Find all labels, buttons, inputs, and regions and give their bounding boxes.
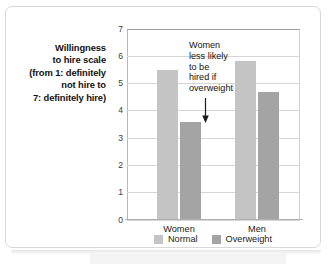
y-tick-7: 7 xyxy=(107,25,123,34)
y-tick-4: 4 xyxy=(107,106,123,115)
y-tick-0: 0 xyxy=(107,216,123,225)
legend: NormalOverweight xyxy=(118,234,308,244)
bar-men-overweight xyxy=(258,92,279,219)
y-tick-6: 6 xyxy=(107,52,123,61)
y-axis-title-line-5: 7: definitely hire) xyxy=(14,92,106,104)
annotation-line-1: Women xyxy=(189,40,255,51)
annotation-line-3: to be xyxy=(189,62,255,73)
bar-women-normal xyxy=(157,70,178,219)
legend-item-overweight[interactable]: Overweight xyxy=(212,234,272,244)
legend-swatch-overweight xyxy=(212,235,221,244)
legend-label-overweight: Overweight xyxy=(226,234,272,244)
legend-swatch-normal xyxy=(154,235,163,244)
legend-item-normal[interactable]: Normal xyxy=(154,234,198,244)
annotation-line-5: overweight xyxy=(189,83,255,94)
annotation-line-2: less likely xyxy=(189,51,255,62)
y-tick-2: 2 xyxy=(107,161,123,170)
figure-card: Willingness to hire scale (from 1: defin… xyxy=(5,6,321,248)
y-axis-tick-labels: 76543210 xyxy=(105,29,123,220)
annotation-text: Women less likely to be hired if overwei… xyxy=(189,40,255,94)
card-shadow-secondary xyxy=(90,254,286,264)
x-axis-line xyxy=(125,219,303,220)
y-axis-title-line-2: to hire scale xyxy=(14,54,106,66)
annotation-line-4: hired if xyxy=(189,72,255,83)
annotation-arrow-icon xyxy=(201,98,210,124)
y-tick-3: 3 xyxy=(107,134,123,143)
legend-label-normal: Normal xyxy=(168,234,198,244)
y-axis-title-line-3: (from 1: definitely xyxy=(14,67,106,79)
y-axis-title-line-4: not hire to xyxy=(14,79,106,91)
y-tick-1: 1 xyxy=(107,188,123,197)
y-tick-5: 5 xyxy=(107,79,123,88)
bar-women-overweight xyxy=(180,122,201,219)
y-axis-title-line-1: Willingness xyxy=(14,42,106,54)
y-axis-title: Willingness to hire scale (from 1: defin… xyxy=(14,42,106,104)
